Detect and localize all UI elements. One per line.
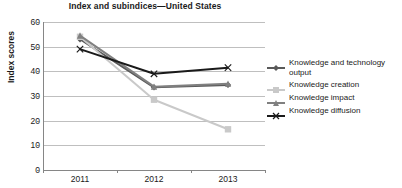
y-tick-mark-20 xyxy=(37,121,40,122)
chart-container: Index and subindices—United States Index… xyxy=(0,0,402,188)
x-tick-mark-0 xyxy=(43,170,44,173)
y-tick-mark-10 xyxy=(37,145,40,146)
y-tick-mark-40 xyxy=(37,71,40,72)
y-tick-mark-0 xyxy=(37,170,40,171)
chart-title: Index and subindices—United States xyxy=(40,1,250,11)
series-lines xyxy=(43,22,265,170)
legend-item-3[interactable]: Knowledge diffusion xyxy=(266,106,402,117)
x-tick-mark-1 xyxy=(117,170,118,173)
legend-label-0: Knowledge and technology output xyxy=(289,58,402,78)
series-2 xyxy=(77,32,231,89)
legend-marker-diamond-icon xyxy=(266,59,286,69)
series-3 xyxy=(77,46,231,77)
chart-legend: Knowledge and technology outputKnowledge… xyxy=(266,58,402,119)
legend-item-1[interactable]: Knowledge creation xyxy=(266,80,402,91)
legend-marker-x-icon xyxy=(266,107,286,117)
x-tick-mark-end xyxy=(265,170,266,173)
series-0 xyxy=(77,36,231,91)
legend-marker-square-icon xyxy=(266,81,286,91)
legend-marker-triangle-icon xyxy=(266,94,286,104)
legend-label-1: Knowledge creation xyxy=(289,80,359,90)
legend-item-0[interactable]: Knowledge and technology output xyxy=(266,58,402,78)
legend-label-3: Knowledge diffusion xyxy=(289,106,360,116)
y-tick-mark-60 xyxy=(37,22,40,23)
y-tick-mark-50 xyxy=(37,47,40,48)
x-tick-label-2013: 2013 xyxy=(208,174,248,184)
x-tick-label-2011: 2011 xyxy=(60,174,100,184)
y-axis-line xyxy=(43,22,44,171)
legend-label-2: Knowledge impact xyxy=(289,93,354,103)
x-tick-label-2012: 2012 xyxy=(134,174,174,184)
x-tick-mark-2 xyxy=(191,170,192,173)
y-axis-tick-labels: 0102030405060 xyxy=(8,22,40,170)
y-tick-mark-30 xyxy=(37,96,40,97)
x-axis-line xyxy=(43,170,265,171)
plot-area xyxy=(43,22,265,170)
legend-item-2[interactable]: Knowledge impact xyxy=(266,93,402,104)
